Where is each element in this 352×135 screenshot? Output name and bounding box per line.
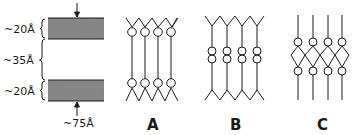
top-arrow-icon [75,3,80,17]
bottom-layer-thickness-label: ~20Å [4,85,35,98]
middle-layer-thickness-label: ~35Å [3,54,34,67]
trilaminar-structure: ~20Å ~35Å ~20Å ~75Å [3,3,104,130]
total-thickness-label: ~75Å [63,117,94,130]
top-layer-thickness-label: ~20Å [4,23,35,36]
model-c [291,15,349,100]
bottom-dense-layer [48,80,104,101]
panel-label-b: B [230,116,241,134]
model-a [126,18,178,101]
panel-label-a: A [147,116,159,134]
model-b [205,16,264,100]
membrane-figure: ~20Å ~35Å ~20Å ~75Å A [0,0,352,135]
braces [40,19,46,100]
panel-label-c: C [317,116,328,134]
bottom-arrow-icon [75,102,80,116]
top-dense-layer [48,18,104,39]
